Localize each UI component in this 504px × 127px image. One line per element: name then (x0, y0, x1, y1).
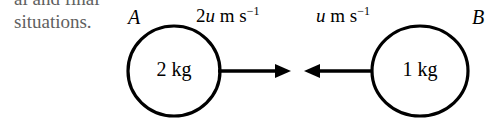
figure-canvas: al and final situations. A B 2u m s−1 u … (0, 0, 504, 127)
velocity-label-left: 2u m s−1 (196, 6, 259, 25)
velocity-label-right: u m s−1 (316, 6, 370, 25)
body-a-label: A (128, 8, 140, 27)
velocity-left-symbol: u (206, 5, 216, 26)
velocity-left-exponent: −1 (247, 4, 260, 18)
velocity-left-unit: m s (215, 5, 247, 26)
body-b-label: B (472, 8, 484, 27)
velocity-right-unit: m s (326, 5, 358, 26)
velocity-left-coefficient: 2 (196, 5, 206, 26)
arrow-a-right-icon (218, 64, 291, 78)
velocity-right-symbol: u (316, 5, 326, 26)
arrow-b-left-icon (304, 64, 371, 78)
mass-b-value: 1 kg (372, 58, 468, 81)
mass-a-value: 2 kg (128, 58, 220, 81)
velocity-right-exponent: −1 (357, 4, 370, 18)
